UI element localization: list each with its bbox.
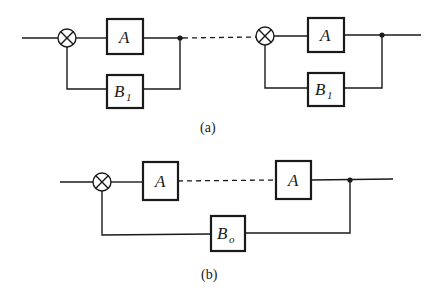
block-b1-label: B	[114, 82, 125, 101]
block-diagram: A B 1 A B 1 (a)	[0, 0, 448, 303]
block-b1	[308, 73, 344, 106]
dashed-connector	[178, 180, 276, 181]
caption-a: (a)	[200, 120, 216, 136]
summing-junction-icon	[93, 173, 111, 191]
block-b1-label: B	[315, 80, 326, 99]
block-a-label: A	[287, 171, 299, 190]
block-b1-subscript: 1	[126, 91, 132, 103]
diagram-b: A A B o	[60, 161, 393, 251]
block-b1-subscript: 1	[327, 89, 333, 101]
block-a-label: A	[154, 172, 166, 191]
diagram-a-stage-1: A B 1	[22, 19, 183, 108]
block-b1	[107, 75, 143, 108]
block-bo-subscript: o	[229, 233, 235, 245]
summing-junction-icon	[256, 27, 274, 45]
block-bo-label: B	[217, 224, 228, 243]
summing-junction-icon	[58, 29, 76, 47]
caption-b: (b)	[201, 267, 218, 283]
block-a-label: A	[118, 28, 130, 47]
diagram-a-stage-2: A B 1	[256, 18, 421, 106]
block-a-label: A	[319, 26, 331, 45]
dashed-connector	[183, 37, 256, 38]
